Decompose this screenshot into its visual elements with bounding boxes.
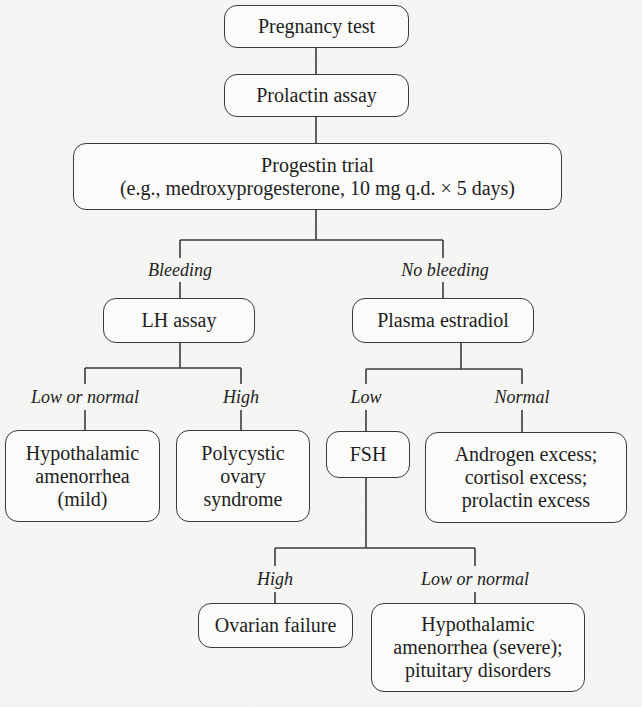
node-text: Progestin trial (261, 154, 374, 177)
node-text: prolactin excess (462, 489, 590, 512)
node-text: pituitary disorders (405, 659, 551, 682)
page-background: Pregnancy test Prolactin assay Progestin… (0, 0, 642, 707)
edge-label-lh-high: High (221, 387, 261, 407)
node-hypothalamic-amenorrhea-mild: Hypothalamic amenorrhea (mild) (5, 430, 160, 522)
node-text: ovary (220, 465, 266, 488)
node-pregnancy-test: Pregnancy test (224, 5, 409, 48)
node-text: cortisol excess; (465, 466, 588, 489)
node-fsh: FSH (326, 431, 410, 478)
node-prolactin-assay: Prolactin assay (224, 74, 409, 117)
node-text: Hypothalamic (421, 613, 534, 636)
node-hypothalamic-amenorrhea-severe: Hypothalamic amenorrhea (severe); pituit… (371, 603, 585, 692)
node-text: Ovarian failure (215, 614, 337, 637)
edge-label-estradiol-normal: Normal (492, 387, 551, 407)
edge-label-lh-low-or-normal: Low or normal (29, 387, 141, 407)
node-polycystic-ovary-syndrome: Polycystic ovary syndrome (176, 430, 310, 522)
node-ovarian-failure: Ovarian failure (198, 603, 353, 648)
node-plasma-estradiol: Plasma estradiol (352, 298, 534, 343)
node-androgen-excess: Androgen excess; cortisol excess; prolac… (425, 432, 627, 523)
node-progestin-trial: Progestin trial (e.g., medroxyprogestero… (73, 143, 562, 210)
edge-label-bleeding: Bleeding (146, 260, 214, 280)
node-text: FSH (350, 443, 387, 466)
node-text: syndrome (204, 488, 283, 511)
node-text: (e.g., medroxyprogesterone, 10 mg q.d. ×… (120, 177, 515, 200)
node-text: Plasma estradiol (377, 309, 509, 332)
node-text: Prolactin assay (256, 84, 377, 107)
node-text: Hypothalamic (26, 442, 139, 465)
node-text: Pregnancy test (258, 15, 375, 38)
node-lh-assay: LH assay (103, 298, 255, 343)
edge-label-no-bleeding: No bleeding (399, 260, 491, 280)
edge-label-estradiol-low: Low (348, 387, 383, 407)
edge-label-fsh-high: High (255, 569, 295, 589)
node-text: Androgen excess; (455, 443, 598, 466)
node-text: amenorrhea (35, 465, 129, 488)
node-text: LH assay (142, 309, 217, 332)
node-text: amenorrhea (severe); (393, 636, 562, 659)
edge-label-fsh-low-or-normal: Low or normal (419, 569, 531, 589)
node-text: Polycystic (201, 442, 284, 465)
node-text: (mild) (58, 488, 108, 511)
